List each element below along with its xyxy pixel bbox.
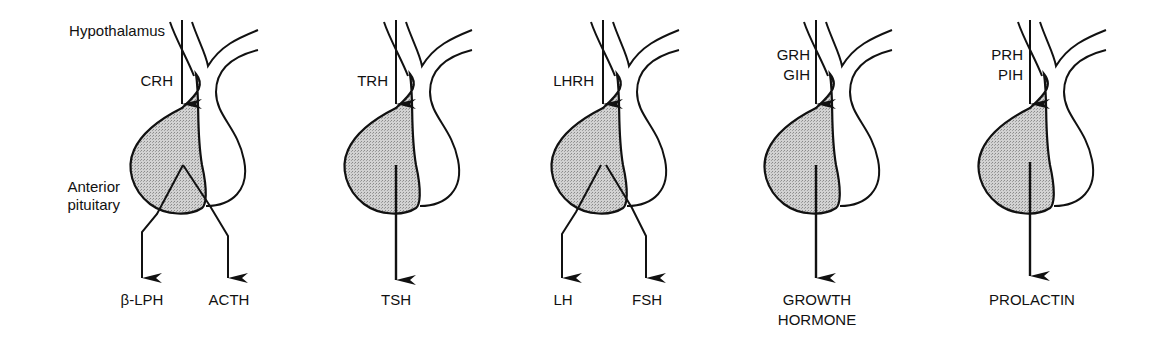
releasing-hormone-gih: GIH bbox=[783, 66, 810, 84]
output-hormone: HORMONE bbox=[778, 311, 856, 329]
pituitary-hormone-diagram bbox=[0, 0, 1158, 339]
output-lh: LH bbox=[553, 291, 572, 309]
panel-trh bbox=[345, 20, 472, 280]
releasing-hormone-trh: TRH bbox=[357, 72, 388, 90]
releasing-hormone-pih: PIH bbox=[998, 66, 1023, 84]
panel-lhrh bbox=[552, 20, 679, 278]
output-prolactin: PROLACTIN bbox=[989, 291, 1075, 309]
hypothalamus-label: Hypothalamus bbox=[69, 22, 165, 40]
panel-crh bbox=[131, 20, 258, 278]
output-fsh: FSH bbox=[632, 291, 662, 309]
output-tsh: TSH bbox=[381, 291, 411, 309]
anterior-pituitary-label-1: Anterior bbox=[67, 178, 120, 196]
anterior-pituitary-label-2: pituitary bbox=[67, 196, 120, 214]
output-beta-lph: β-LPH bbox=[121, 291, 164, 309]
releasing-hormone-crh: CRH bbox=[141, 72, 174, 90]
output-acth: ACTH bbox=[209, 291, 250, 309]
releasing-hormone-lhrh: LHRH bbox=[553, 72, 594, 90]
releasing-hormone-prh: PRH bbox=[991, 46, 1023, 64]
output-growth: GROWTH bbox=[783, 291, 851, 309]
releasing-hormone-grh: GRH bbox=[777, 46, 810, 64]
